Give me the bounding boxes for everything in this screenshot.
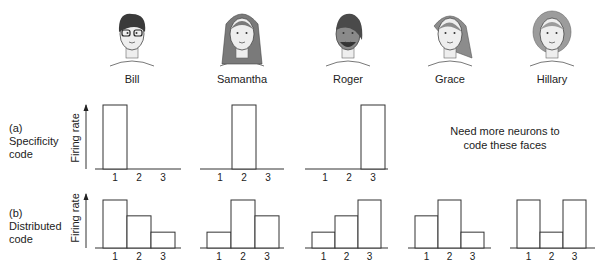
bar (151, 232, 175, 248)
bar (103, 200, 127, 248)
tick-label: 2 (341, 251, 353, 262)
row-a-marker: (a) (9, 122, 59, 135)
tick-label: 2 (133, 172, 145, 183)
face-name-samantha: Samantha (202, 73, 282, 85)
bar (563, 200, 586, 248)
row-b-marker: (b) (9, 207, 62, 220)
tick-label: 2 (133, 251, 145, 262)
tick-label: 1 (318, 251, 330, 262)
bar (255, 216, 279, 248)
note-text: Need more neurons to code these faces (430, 124, 580, 152)
row-a-title: Specificity (9, 135, 59, 148)
face-portrait-bill (110, 14, 154, 66)
tick-label: 3 (364, 251, 376, 262)
bar (335, 216, 358, 248)
tick-label: 1 (214, 172, 226, 183)
tick-label: 1 (319, 172, 331, 183)
bar (127, 216, 151, 248)
face-portrait-hillary (530, 11, 574, 66)
face-name-hillary: Hillary (512, 73, 592, 85)
row-label-specificity: (a) Specificity code (9, 122, 59, 161)
tick-label: 2 (343, 172, 355, 183)
y-axis-label-a: Firing rate (69, 108, 81, 168)
tick-label: 1 (109, 251, 121, 262)
bar (540, 232, 563, 248)
tick-label: 1 (523, 251, 535, 262)
face-name-roger: Roger (308, 73, 388, 85)
bar (232, 105, 256, 169)
bar (358, 200, 381, 248)
note-line-1: Need more neurons to (430, 124, 580, 138)
arrow-up-icon (84, 193, 89, 200)
bar (517, 200, 540, 248)
tick-label: 1 (213, 251, 225, 262)
tick-label: 3 (467, 251, 479, 262)
bar (361, 105, 385, 169)
bar (231, 200, 255, 248)
bar (438, 200, 461, 248)
tick-label: 3 (367, 172, 379, 183)
row-label-distributed: (b) Distributed code (9, 207, 62, 246)
tick-label: 2 (546, 251, 558, 262)
face-portrait-grace (428, 16, 472, 66)
tick-label: 3 (157, 251, 169, 262)
row-b-title-2: code (9, 233, 62, 246)
face-name-bill: Bill (92, 73, 172, 85)
tick-label: 3 (157, 172, 169, 183)
face-portrait-roger (326, 14, 370, 66)
tick-label: 2 (444, 251, 456, 262)
bar (312, 232, 335, 248)
face-name-grace: Grace (410, 73, 490, 85)
tick-label: 2 (237, 251, 249, 262)
tick-label: 1 (109, 172, 121, 183)
y-axis-label-b: Firing rate (69, 188, 81, 248)
tick-label: 1 (421, 251, 433, 262)
tick-label: 2 (238, 172, 250, 183)
row-b-title: Distributed (9, 220, 62, 233)
bar (103, 105, 127, 169)
face-portrait-samantha (220, 14, 264, 66)
arrow-up-icon (84, 104, 89, 111)
bar (415, 216, 438, 248)
bar (207, 232, 231, 248)
tick-label: 3 (262, 172, 274, 183)
note-line-2: code these faces (430, 138, 580, 152)
bar (461, 232, 484, 248)
tick-label: 3 (569, 251, 581, 262)
row-a-title-2: code (9, 148, 59, 161)
tick-label: 3 (261, 251, 273, 262)
